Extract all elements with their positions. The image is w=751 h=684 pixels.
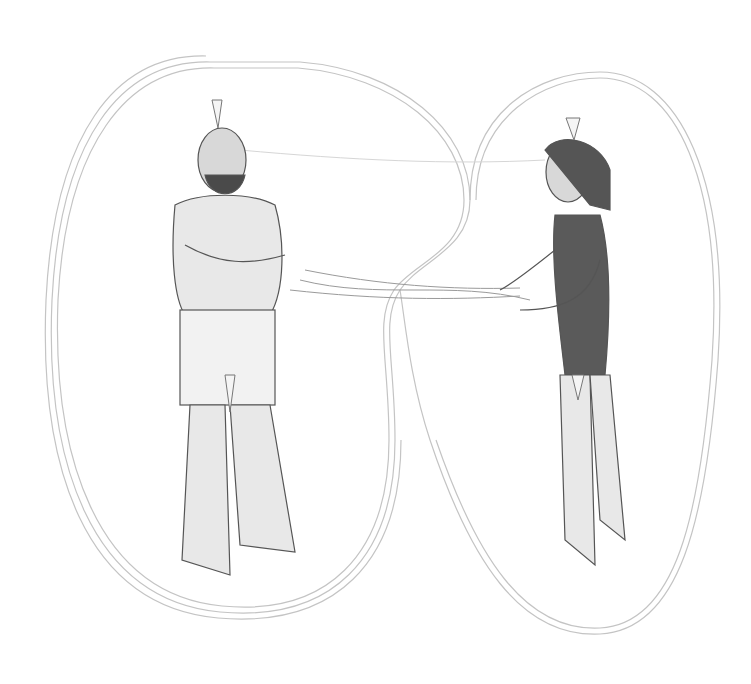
aura-illustration xyxy=(0,0,751,684)
woman-figure xyxy=(500,140,625,565)
energy-strands xyxy=(240,150,545,300)
illustration-canvas xyxy=(0,0,751,684)
man-figure xyxy=(173,128,295,575)
